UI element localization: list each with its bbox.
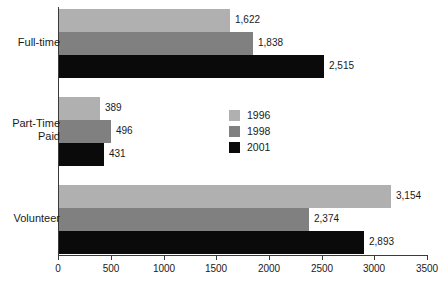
x-tick-3500	[427, 255, 428, 260]
x-tick-label-3500: 3500	[416, 263, 438, 274]
x-tick-label-500: 500	[103, 263, 120, 274]
legend-item-2001[interactable]: 2001	[229, 140, 270, 154]
x-tick-2000	[269, 255, 270, 260]
legend-swatch-icon-1998	[229, 126, 240, 137]
bar-full-time-1998[interactable]	[59, 32, 253, 55]
legend: 1996 1998 2001	[229, 108, 270, 156]
bar-value-full-time-2001: 2,515	[329, 60, 354, 71]
bar-value-full-time-1996: 1,622	[235, 14, 260, 25]
bar-full-time-2001[interactable]	[59, 55, 324, 78]
x-tick-label-2500: 2500	[311, 263, 333, 274]
x-tick-2500	[322, 255, 323, 260]
bar-value-volunteer-1996: 3,154	[396, 190, 421, 201]
bar-full-time-1996[interactable]	[59, 9, 230, 32]
bar-part-time-paid-1996[interactable]	[59, 97, 100, 120]
bar-value-volunteer-2001: 2,893	[369, 236, 394, 247]
legend-swatch-icon-1996	[229, 110, 240, 121]
x-tick-1000	[164, 255, 165, 260]
x-tick-0	[58, 255, 59, 260]
bar-part-time-paid-2001[interactable]	[59, 143, 104, 166]
category-label-part-time-paid: Part-Time Paid	[12, 117, 60, 143]
legend-label-2001: 2001	[247, 141, 270, 153]
bar-volunteer-2001[interactable]	[59, 231, 364, 254]
x-tick-label-2000: 2000	[258, 263, 280, 274]
x-tick-500	[111, 255, 112, 260]
plot-area: 0 500 1000 1500 2000 2500 3000 3500 1,62…	[0, 0, 445, 290]
legend-item-1998[interactable]: 1998	[229, 124, 270, 138]
x-tick-label-1000: 1000	[153, 263, 175, 274]
bar-value-full-time-1998: 1,838	[258, 37, 283, 48]
bar-volunteer-1996[interactable]	[59, 185, 391, 208]
category-label-volunteer: Volunteer	[14, 212, 60, 225]
bar-value-part-time-paid-1996: 389	[105, 102, 122, 113]
bar-value-part-time-paid-1998: 496	[116, 125, 133, 136]
bar-chart: 0 500 1000 1500 2000 2500 3000 3500 1,62…	[0, 0, 445, 290]
x-tick-label-1500: 1500	[205, 263, 227, 274]
category-label-full-time: Full-time	[18, 36, 60, 49]
legend-label-1996: 1996	[247, 109, 270, 121]
x-tick-label-0: 0	[55, 263, 61, 274]
x-tick-label-3000: 3000	[363, 263, 385, 274]
x-tick-1500	[216, 255, 217, 260]
x-tick-3000	[374, 255, 375, 260]
legend-label-1998: 1998	[247, 125, 270, 137]
legend-item-1996[interactable]: 1996	[229, 108, 270, 122]
bar-volunteer-1998[interactable]	[59, 208, 309, 231]
bar-value-part-time-paid-2001: 431	[109, 148, 126, 159]
bar-part-time-paid-1998[interactable]	[59, 120, 111, 143]
bar-value-volunteer-1998: 2,374	[314, 213, 339, 224]
x-axis-line	[58, 255, 427, 256]
legend-swatch-icon-2001	[229, 142, 240, 153]
